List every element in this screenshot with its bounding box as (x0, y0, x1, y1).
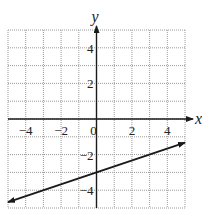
y-tick-label: −2 (80, 148, 94, 163)
x-tick-label: −4 (19, 123, 33, 138)
x-tick-label: 4 (164, 123, 171, 138)
x-axis-title: x (194, 110, 202, 127)
axes (8, 26, 193, 208)
coordinate-graph: −4−202442−2−4 x y (0, 0, 202, 222)
x-tick-label: −2 (54, 123, 68, 138)
y-tick-label: 2 (87, 76, 94, 91)
y-tick-label: 4 (87, 41, 94, 56)
x-tick-label: 0 (90, 123, 97, 138)
y-tick-label: −4 (80, 183, 94, 198)
data-line (97, 143, 186, 173)
y-axis-title: y (90, 8, 100, 26)
x-tick-label: 2 (129, 123, 136, 138)
